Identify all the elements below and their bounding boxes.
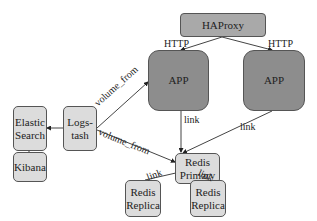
redis-primary-label-line1: Redis xyxy=(185,156,210,169)
edge-label-haproxy-app2: HTTP xyxy=(268,38,293,49)
elastic-label-line1: Elastic xyxy=(15,116,45,129)
app-node-1[interactable]: APP xyxy=(148,50,209,111)
redis-replica1-label-line2: Replica xyxy=(126,199,160,212)
app-label-2: APP xyxy=(264,74,284,87)
redis-replica2-label-line1: Redis xyxy=(195,186,220,199)
edge-label-app1-redis: link xyxy=(184,114,200,125)
haproxy-label: HAProxy xyxy=(202,19,244,32)
kibana-label: Kibana xyxy=(14,161,46,174)
edge-label-haproxy-app1: HTTP xyxy=(164,38,189,49)
app-node-2[interactable]: APP xyxy=(243,50,305,111)
redis-replica2-label-line2: Replica xyxy=(191,199,225,212)
kibana-node[interactable]: Kibana xyxy=(13,152,47,182)
redis-replica-node-2[interactable]: Redis Replica xyxy=(190,180,226,217)
edge-haproxy-app2 xyxy=(222,37,272,50)
logstash-node[interactable]: Logs- tash xyxy=(63,106,97,151)
logstash-label-line2: tash xyxy=(71,129,89,142)
edge-label-app2-redis: link xyxy=(240,121,256,132)
elastic-label-line2: Search xyxy=(15,129,45,142)
redis-replica-node-1[interactable]: Redis Replica xyxy=(125,180,161,217)
haproxy-node[interactable]: HAProxy xyxy=(180,13,266,37)
app-label-1: APP xyxy=(168,74,188,87)
redis-replica1-label-line1: Redis xyxy=(130,186,155,199)
elasticsearch-node[interactable]: Elastic Search xyxy=(13,106,47,151)
logstash-label-line1: Logs- xyxy=(67,116,93,129)
